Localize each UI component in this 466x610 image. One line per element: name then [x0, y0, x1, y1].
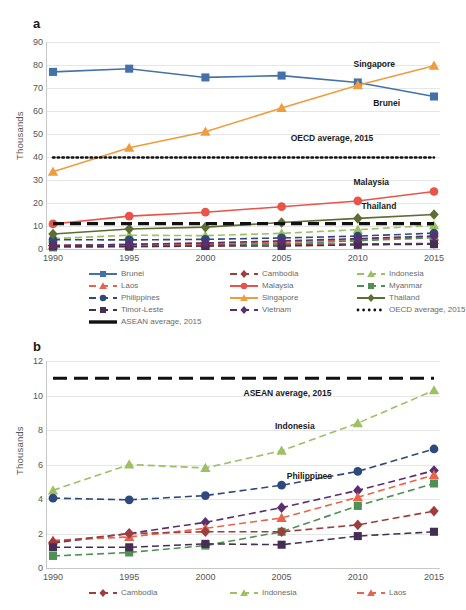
data-point: [430, 445, 439, 454]
x-axis-tick: 1995: [119, 253, 139, 263]
legend-item-laos[interactable]: Laos: [356, 587, 406, 598]
legend-label: Laos: [389, 588, 406, 597]
data-point: [49, 543, 57, 551]
data-point: [201, 491, 210, 500]
legend-swatch: [356, 587, 386, 598]
data-point: [353, 520, 363, 531]
legend-swatch: [356, 280, 386, 291]
panel-b-ylabel: Thousands: [14, 426, 25, 475]
legend-item-brunei[interactable]: Brunei: [88, 268, 144, 279]
data-point: [277, 502, 287, 513]
data-point: [125, 212, 134, 221]
series-annotation: Indonesia: [275, 421, 315, 431]
y-axis-tick: 2: [38, 529, 43, 539]
legend-label: Indonesia: [262, 588, 297, 597]
data-point: [430, 479, 438, 487]
data-point: [49, 552, 57, 560]
y-axis-tick: 40: [33, 152, 43, 162]
legend-item-oecd-average-2015[interactable]: OECD average, 2015: [356, 304, 466, 315]
data-point: [49, 68, 57, 76]
gridline: [47, 568, 440, 569]
legend-swatch: [229, 268, 259, 279]
data-point: [430, 240, 438, 248]
panel-b-letter: b: [33, 339, 41, 354]
legend-swatch: [229, 292, 259, 303]
x-axis-tick: 1990: [43, 253, 63, 263]
data-point: [429, 61, 439, 70]
data-point: [276, 446, 286, 455]
legend-item-indonesia[interactable]: Indonesia: [356, 268, 424, 279]
legend-swatch: [356, 268, 386, 279]
legend-label: Vietnam: [262, 305, 291, 314]
legend-item-indonesia[interactable]: Indonesia: [229, 587, 297, 598]
y-axis-tick: 6: [38, 460, 43, 470]
x-axis-tick: 2005: [272, 253, 292, 263]
data-point: [277, 481, 286, 490]
data-point: [124, 459, 134, 468]
data-point: [430, 528, 438, 536]
legend-label: Cambodia: [121, 588, 157, 597]
legend-item-cambodia[interactable]: Cambodia: [229, 268, 298, 279]
data-point: [430, 92, 438, 100]
legend-label: Philippines: [121, 293, 160, 302]
data-point: [278, 541, 286, 549]
series-indonesia: [48, 385, 439, 494]
y-axis-tick: 4: [38, 494, 43, 504]
panel-b-legend: CambodiaIndonesiaLaos: [46, 587, 440, 607]
legend-label: Thailand: [389, 293, 420, 302]
y-axis-tick: 8: [38, 425, 43, 435]
y-axis-tick: 30: [33, 175, 43, 185]
panel-a-ylabel: Thousands: [14, 111, 25, 160]
legend-item-cambodia[interactable]: Cambodia: [88, 587, 157, 598]
panel-a: a Thousands 0102030405060708090199019952…: [0, 0, 452, 325]
legend-item-thailand[interactable]: Thailand: [356, 292, 420, 303]
panel-a-plot: 0102030405060708090199019952000200520102…: [46, 42, 440, 250]
y-axis-tick: 20: [33, 198, 43, 208]
legend-item-vietnam[interactable]: Vietnam: [229, 304, 291, 315]
x-axis-tick: 2010: [348, 253, 368, 263]
legend-item-myanmar[interactable]: Myanmar: [356, 280, 422, 291]
series-philippines: [49, 445, 439, 505]
data-point: [201, 208, 210, 217]
y-axis-tick: 90: [33, 37, 43, 47]
data-point: [125, 495, 134, 504]
x-axis-tick: 2000: [195, 253, 215, 263]
panel-b: b Thousands 0246810121990199520002005201…: [0, 325, 452, 610]
data-point: [125, 65, 133, 73]
data-point: [201, 73, 209, 81]
series-annotation: Malaysia: [354, 177, 389, 187]
legend-item-philippines[interactable]: Philippines: [88, 292, 160, 303]
legend-item-laos[interactable]: Laos: [88, 280, 138, 291]
legend-label: OECD average, 2015: [389, 305, 466, 314]
legend-swatch: [88, 280, 118, 291]
legend-item-malaysia[interactable]: Malaysia: [229, 280, 294, 291]
data-point: [353, 467, 362, 476]
data-point: [429, 385, 439, 394]
data-point: [201, 540, 209, 548]
data-point: [354, 502, 362, 510]
x-axis-tick: 2015: [424, 572, 444, 582]
legend-swatch: [88, 268, 118, 279]
x-axis-tick: 1990: [43, 572, 63, 582]
legend-item-singapore[interactable]: Singapore: [229, 292, 298, 303]
legend-swatch: [88, 292, 118, 303]
legend-item-timor-leste[interactable]: Timor-Leste: [88, 304, 163, 315]
legend-swatch: [229, 280, 259, 291]
series-annotation: ASEAN average, 2015: [244, 388, 332, 398]
x-axis-tick: 2005: [272, 572, 292, 582]
series-annotation: OECD average, 2015: [291, 133, 374, 143]
legend-swatch: [229, 587, 259, 598]
y-axis-tick: 60: [33, 106, 43, 116]
legend-label: Brunei: [121, 269, 144, 278]
panel-a-legend: BruneiCambodiaIndonesiaLaosMalaysiaMyanm…: [46, 268, 440, 320]
legend-label: Malaysia: [262, 281, 294, 290]
series-laos: [48, 470, 439, 545]
series-annotation: Thailand: [361, 201, 396, 211]
legend-label: Laos: [121, 281, 138, 290]
data-point: [353, 418, 363, 427]
series-annotation: Philippines: [287, 471, 332, 481]
y-axis-tick: 80: [33, 60, 43, 70]
series-annotation: Brunei: [373, 98, 400, 108]
series-layer: [47, 42, 440, 249]
